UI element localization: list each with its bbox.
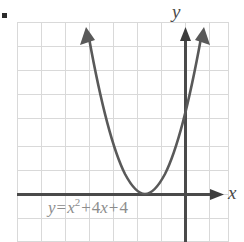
- equation-equals: =: [56, 198, 68, 217]
- parabola-figure: y x y=x2+4x+4: [0, 0, 244, 242]
- x-axis-label: x: [228, 183, 236, 202]
- equation-plus-first: +: [80, 198, 92, 217]
- y-axis-label: y: [172, 2, 180, 21]
- y-axis: [180, 27, 191, 242]
- equation-plus-second: +: [108, 198, 120, 217]
- equation-linear-variable: x: [100, 198, 108, 217]
- equation-constant: 4: [119, 198, 128, 217]
- equation-coefficient: 4: [92, 198, 101, 217]
- parabola-curve: [80, 27, 210, 194]
- equation-variable: x: [67, 198, 75, 217]
- equation-y: y: [48, 198, 56, 217]
- equation-annotation: y=x2+4x+4: [48, 199, 128, 216]
